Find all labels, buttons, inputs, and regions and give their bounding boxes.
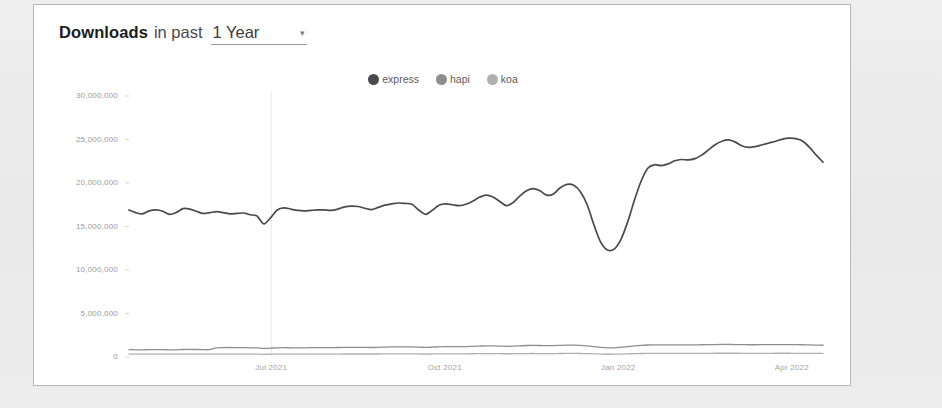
downloads-line-chart [34, 5, 852, 387]
y-axis-tick-label: 30,000,000 [46, 91, 118, 100]
chart-plot-area[interactable]: 05,000,00010,000,00015,000,00020,000,000… [34, 5, 852, 387]
line-series-koa [129, 353, 823, 354]
y-axis-tick-label: 5,000,000 [46, 309, 118, 318]
y-axis-tick-label: 0 [46, 352, 118, 361]
x-axis-tick-label: Jan 2022 [573, 363, 663, 372]
line-series-hapi [129, 344, 823, 349]
y-axis-tick-label: 20,000,000 [46, 178, 118, 187]
x-axis-tick-label: Oct 2021 [400, 363, 490, 372]
y-axis-tick-label: 25,000,000 [46, 135, 118, 144]
y-axis-tick-label: 10,000,000 [46, 265, 118, 274]
line-series-express [129, 138, 823, 251]
downloads-chart-card: Downloads in past 1 Year ▾ express hapi … [33, 4, 851, 386]
x-axis-tick-label: Jul 2021 [226, 363, 316, 372]
y-axis-tick-label: 15,000,000 [46, 222, 118, 231]
x-axis-tick-label: Apr 2022 [747, 363, 837, 372]
